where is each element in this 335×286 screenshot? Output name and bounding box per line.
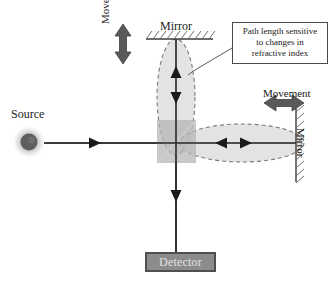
interferometer-diagram: Source Mirror Mirror Movement Movement P… [0, 0, 335, 286]
label-source: Source [11, 108, 44, 120]
callout-line-1: Path length sensitive [236, 26, 324, 37]
source-dot-highlight [28, 137, 34, 143]
movement-arrow-vertical-icon [115, 24, 131, 64]
arrowhead-source-right [89, 138, 101, 149]
label-movement-right: Movement [263, 88, 311, 99]
callout-leader-line [188, 48, 232, 75]
callout-line-2: to changes in [236, 37, 324, 48]
detector-box: Detector [145, 252, 216, 272]
source-dot-icon [21, 134, 38, 151]
label-movement-left: Movement [100, 0, 111, 24]
source [12, 125, 46, 159]
callout-box: Path length sensitive to changes in refr… [232, 22, 328, 64]
callout-line-3: refractive index [236, 48, 324, 59]
label-mirror-right: Mirror [295, 128, 306, 157]
label-mirror-top: Mirror [160, 20, 192, 32]
arrowhead-detector-down [171, 190, 182, 202]
